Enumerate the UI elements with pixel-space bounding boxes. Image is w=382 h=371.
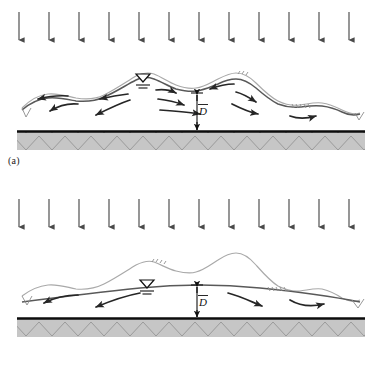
- water-table-a: [22, 78, 360, 115]
- depth-label-b: D: [198, 296, 208, 309]
- figure-container: D (a): [0, 0, 382, 371]
- recharge-arrows-a: [19, 12, 349, 40]
- panel-a: D (a): [0, 0, 382, 186]
- flow-arrows-b: [44, 293, 324, 307]
- depth-label-text-a: D: [198, 105, 207, 117]
- water-table-symbol-a: [136, 74, 150, 88]
- panel-b: D (b): [0, 186, 382, 371]
- substrate-b: [17, 319, 365, 337]
- substrate-a: [17, 132, 365, 150]
- panel-caption-a: (a): [8, 155, 20, 166]
- water-table-b: [22, 285, 360, 302]
- depth-label-text-b: D: [198, 296, 207, 308]
- depth-label-a: D: [198, 105, 208, 118]
- seepage-ticks-b: [22, 259, 364, 308]
- panel-b-diagram: D: [0, 186, 382, 371]
- panel-a-diagram: D: [0, 0, 382, 186]
- recharge-arrows-b: [19, 199, 349, 227]
